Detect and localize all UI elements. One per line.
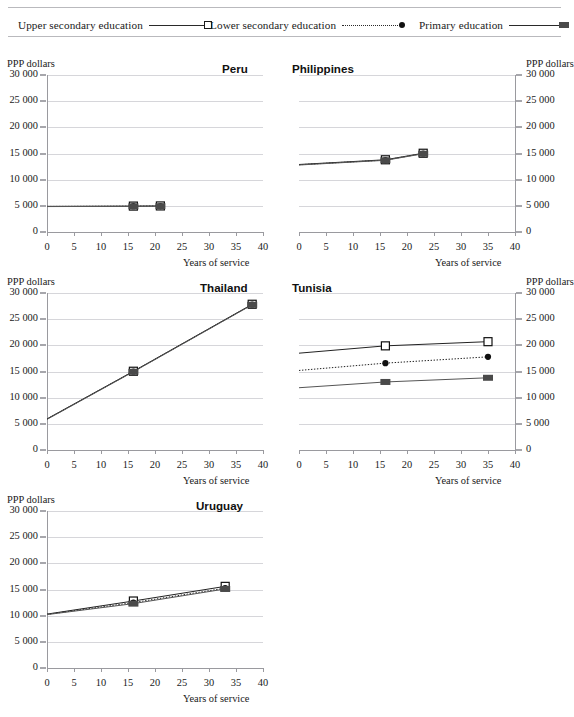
y-tick-mark (40, 667, 46, 669)
x-axis-title: Years of service (183, 693, 249, 704)
y-tick-mark (40, 510, 46, 512)
plot-area-uruguay (47, 511, 263, 668)
y-tick-mark (40, 536, 46, 538)
y-tick-mark (40, 562, 46, 564)
y-tick-mark (40, 641, 46, 643)
series-layer (47, 511, 283, 688)
y-tick-label: 20 000 (9, 556, 38, 567)
y-tick-mark (40, 589, 46, 591)
y-tick-label: 30 000 (9, 504, 38, 515)
marker-filled-square-icon (128, 601, 138, 607)
y-tick-label: 10 000 (9, 609, 38, 620)
y-tick-label: 25 000 (9, 530, 38, 541)
y-tick-label: 0 (33, 661, 38, 672)
marker-filled-square-icon (220, 586, 230, 592)
y-axis-title: PPP dollars (7, 494, 55, 505)
y-tick-label: 15 000 (9, 583, 38, 594)
y-tick-label: 5 000 (15, 635, 38, 646)
y-tick-mark (40, 615, 46, 617)
panel-title-uruguay: Uruguay (196, 499, 243, 512)
